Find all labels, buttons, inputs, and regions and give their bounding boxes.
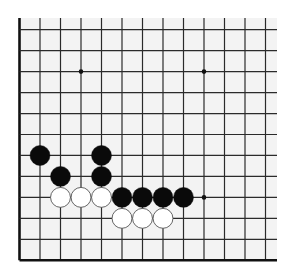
black-stone[interactable] [174, 187, 194, 207]
black-stone[interactable] [51, 166, 71, 186]
black-stone[interactable] [153, 187, 173, 207]
black-stone[interactable] [92, 146, 112, 166]
white-stone[interactable] [112, 208, 132, 228]
black-stone[interactable] [112, 187, 132, 207]
white-stone[interactable] [153, 208, 173, 228]
white-stone[interactable] [71, 187, 91, 207]
white-stone[interactable] [51, 187, 71, 207]
black-stone[interactable] [133, 187, 153, 207]
star-point [79, 69, 84, 74]
white-stone[interactable] [92, 187, 112, 207]
black-stone[interactable] [30, 146, 50, 166]
star-point [202, 69, 207, 74]
go-board[interactable] [0, 0, 293, 280]
white-stone[interactable] [133, 208, 153, 228]
black-stone[interactable] [92, 166, 112, 186]
star-point [202, 195, 207, 200]
